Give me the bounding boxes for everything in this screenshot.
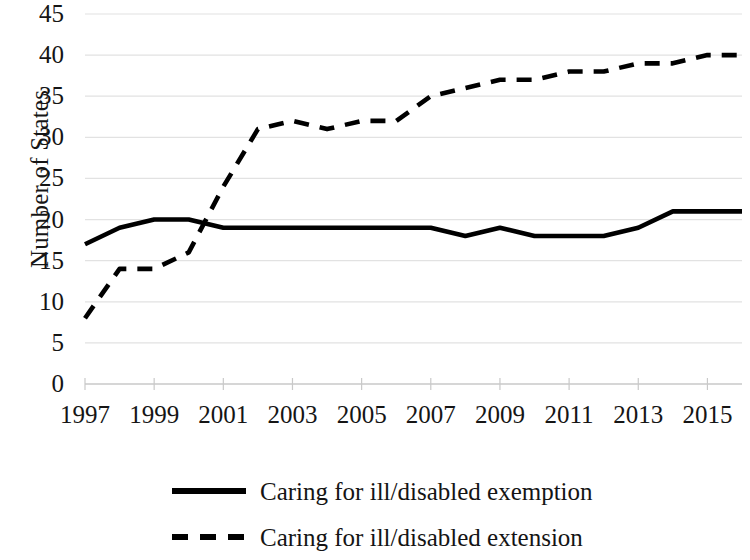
gridlines bbox=[85, 14, 742, 343]
series-line-exemption bbox=[85, 211, 742, 244]
line-chart: Number of States 051015202530354045 1997… bbox=[0, 0, 750, 560]
legend-label-exemption: Caring for ill/disabled exemption bbox=[260, 479, 593, 504]
series-line-extension bbox=[85, 55, 742, 318]
legend-item-exemption: Caring for ill/disabled exemption bbox=[0, 468, 750, 514]
chart-legend: Caring for ill/disabled exemption Caring… bbox=[0, 468, 750, 560]
legend-swatch-dashed-line bbox=[170, 527, 248, 547]
legend-label-extension: Caring for ill/disabled extension bbox=[260, 525, 583, 550]
legend-item-extension: Caring for ill/disabled extension bbox=[0, 514, 750, 560]
legend-swatch-solid-line bbox=[170, 481, 248, 501]
